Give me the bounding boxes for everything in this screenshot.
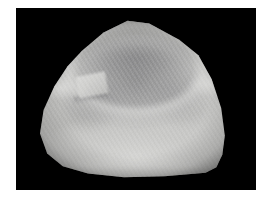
specimen-3d-scan: [16, 8, 256, 190]
scan-image-frame: [16, 8, 256, 190]
figure-page: [0, 0, 267, 203]
specimen-edge-shading: [16, 8, 256, 190]
